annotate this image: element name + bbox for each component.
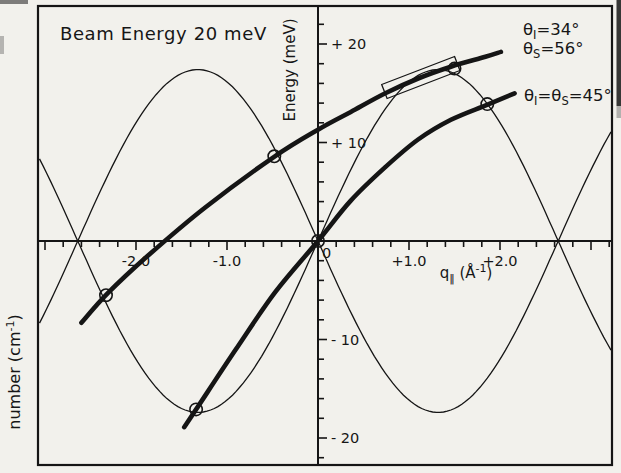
x-axis-title: q‖ (Å-1) [440,262,493,285]
text-layer: Beam Energy 20 meV Energy (meV) 0 -2.0-1… [4,18,612,446]
outer-left-axis-label: number (cm-1) [4,314,24,429]
scan-edge-artifact [0,36,4,54]
scan-edge-artifact [617,106,621,118]
y-tick-label: + 10 [331,135,366,151]
curves-layer [40,52,612,427]
figure-title: Beam Energy 20 meV [60,23,267,44]
y-tick-label: - 20 [331,430,359,446]
scan-edge-artifact [617,0,621,106]
theta-45-label: θI=θS=45° [524,86,612,108]
scan-edge-artifact [0,0,28,4]
theta-56-label: θS=56° [523,39,584,61]
origin-tick-label: 0 [322,245,331,261]
y-axis-title: Energy (meV) [281,18,299,121]
x-tick-label: -1.0 [213,253,241,269]
y-tick-label: + 20 [331,36,366,52]
figure-beam-energy-scan-curves: Beam Energy 20 meV Energy (meV) 0 -2.0-1… [0,0,621,473]
x-tick-label: +1.0 [391,253,426,269]
y-tick-label: - 10 [331,332,359,348]
x-tick-label: -2.0 [122,253,150,269]
scan-curve-plot: Beam Energy 20 meV Energy (meV) 0 -2.0-1… [0,0,621,473]
